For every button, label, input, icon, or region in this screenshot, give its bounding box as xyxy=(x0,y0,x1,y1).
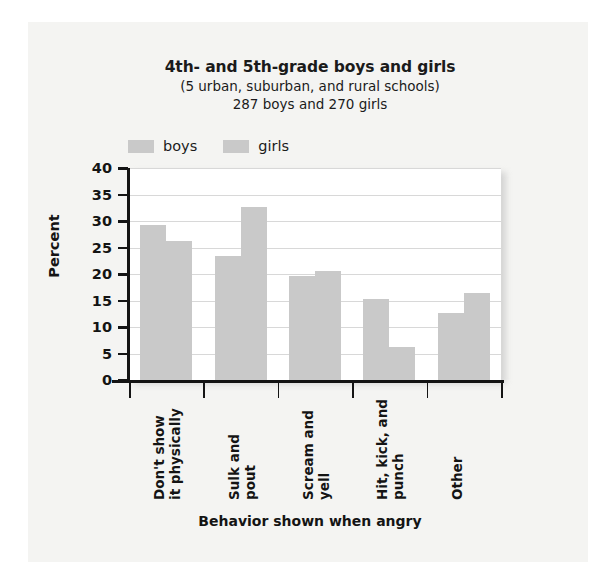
chart-title: 4th- and 5th-grade boys and girls xyxy=(60,58,560,77)
legend-item-boys: boys xyxy=(128,138,197,154)
y-axis-tick xyxy=(118,247,128,250)
x-axis-category-label: pout xyxy=(243,380,261,500)
y-axis-tick xyxy=(118,379,128,382)
y-axis-tick xyxy=(118,300,128,303)
x-axis-separator-tick xyxy=(501,383,503,398)
bar-boys-4 xyxy=(438,313,464,380)
y-axis-tick xyxy=(118,273,128,276)
x-axis-category-label: it physically xyxy=(168,380,186,500)
x-axis-category-label: Other xyxy=(450,380,468,500)
y-axis-tick-label: 25 xyxy=(60,240,112,256)
bar-girls-2 xyxy=(315,271,341,380)
y-axis-tick-labels: 0510152025303540 xyxy=(56,0,112,574)
chart-subtitle: (5 urban, suburban, and rural schools) xyxy=(60,78,560,96)
legend-item-girls: girls xyxy=(223,138,289,154)
bar-girls-3 xyxy=(389,347,415,380)
chart-title-block: 4th- and 5th-grade boys and girls (5 urb… xyxy=(60,58,560,113)
bar-boys-1 xyxy=(215,256,241,380)
y-axis-tick-label: 20 xyxy=(60,266,112,282)
y-axis-tick-label: 0 xyxy=(60,372,112,388)
y-axis-tick xyxy=(118,326,128,329)
y-axis-tick-label: 35 xyxy=(60,187,112,203)
bar-chart-figure: 4th- and 5th-grade boys and girls (5 urb… xyxy=(0,0,613,574)
x-axis-title: Behavior shown when angry xyxy=(60,513,560,529)
chart-legend: boys girls xyxy=(128,138,289,154)
bar-girls-4 xyxy=(464,293,490,380)
y-axis-tick-label: 40 xyxy=(60,160,112,176)
x-axis-separator-tick xyxy=(203,383,205,398)
bar-boys-0 xyxy=(140,225,166,380)
x-axis-separator-tick xyxy=(278,383,280,398)
bar-boys-3 xyxy=(363,299,389,380)
bar-girls-0 xyxy=(166,241,192,380)
legend-label-boys: boys xyxy=(163,138,197,154)
x-axis-separator-tick xyxy=(427,383,429,398)
y-axis-tick-label: 15 xyxy=(60,293,112,309)
y-axis-tick-label: 5 xyxy=(60,346,112,362)
legend-swatch-girls xyxy=(223,140,249,153)
y-axis-tick xyxy=(118,167,128,170)
y-axis-tick-label: 30 xyxy=(60,213,112,229)
y-axis-title: Percent xyxy=(46,186,62,306)
x-axis-category-label: yell xyxy=(317,380,335,500)
chart-subtitle-counts: 287 boys and 270 girls xyxy=(60,96,560,114)
bars-layer xyxy=(129,168,501,380)
bar-boys-2 xyxy=(289,276,315,380)
x-axis-separator-tick xyxy=(129,383,131,398)
y-axis-tick xyxy=(118,353,128,356)
plot-area xyxy=(129,168,501,380)
y-axis-tick-label: 10 xyxy=(60,319,112,335)
x-axis-separator-tick xyxy=(352,383,354,398)
legend-swatch-boys xyxy=(128,140,154,153)
bar-girls-1 xyxy=(241,207,267,380)
y-axis-tick xyxy=(118,220,128,223)
y-axis-tick xyxy=(118,194,128,197)
x-axis-category-label: punch xyxy=(391,380,409,500)
legend-label-girls: girls xyxy=(258,138,289,154)
